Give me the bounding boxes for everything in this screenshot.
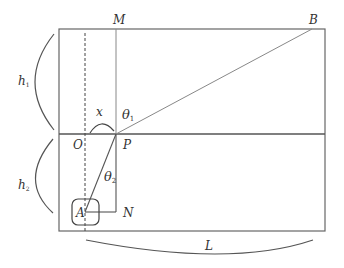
h2-arc [36,139,54,213]
angle-x-arc [90,124,114,133]
outer-rectangle [59,29,325,231]
label-theta1: θ1 [122,107,134,123]
ray-PB [116,29,312,134]
diagram-canvas: M B x θ1 O P θ2 A N h1 h2 L [0,0,344,268]
label-theta2: θ2 [104,169,116,185]
label-L: L [204,239,213,253]
label-N: N [122,206,134,220]
L-arc [86,240,313,254]
h1-arc [35,34,54,130]
label-h1: h1 [18,74,30,88]
label-P: P [122,138,132,152]
label-O: O [73,138,83,152]
label-A: A [75,206,85,220]
label-M: M [112,13,126,27]
label-h2: h2 [18,178,30,192]
label-x: x [96,105,103,119]
label-B: B [308,13,318,27]
